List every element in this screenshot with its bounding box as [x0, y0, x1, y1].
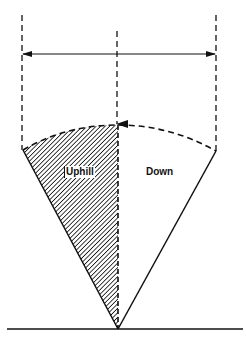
uphill-sector — [23, 125, 118, 329]
down-label: Down — [146, 166, 173, 178]
sector-diagram — [0, 0, 246, 342]
uphill-label: Uphill — [64, 166, 95, 178]
